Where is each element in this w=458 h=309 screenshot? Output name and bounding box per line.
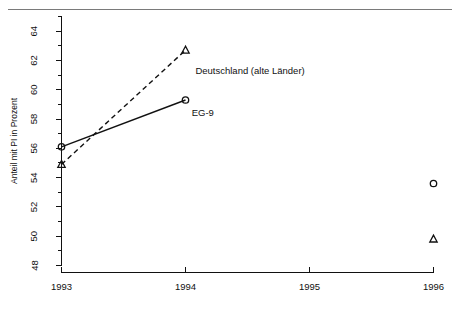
x-tick-label: 1993 xyxy=(51,281,72,292)
x-tick-label: 1995 xyxy=(299,281,320,292)
x-tick-label: 1996 xyxy=(423,281,444,292)
y-tick-label: 54 xyxy=(29,172,40,183)
data-point-triangle xyxy=(182,46,189,53)
y-tick-label: 60 xyxy=(29,84,40,95)
y-tick-label: 52 xyxy=(29,202,40,213)
data-point-triangle xyxy=(430,235,437,242)
y-tick-label: 56 xyxy=(29,143,40,154)
x-tick-label: 1994 xyxy=(175,281,196,292)
y-tick-label: 64 xyxy=(29,26,40,37)
figure-canvas: 485052545658606264Anteil mit PI in Proze… xyxy=(0,0,458,309)
data-point-circle xyxy=(430,180,436,186)
series-label-deutschland: Deutschland (alte Länder) xyxy=(195,65,304,76)
y-tick-label: 48 xyxy=(29,260,40,271)
y-tick-label: 58 xyxy=(29,114,40,125)
line-chart: 485052545658606264Anteil mit PI in Proze… xyxy=(0,0,458,309)
y-tick-label: 50 xyxy=(29,231,40,242)
series-label-eg9: EG-9 xyxy=(192,107,214,118)
y-tick-label: 62 xyxy=(29,55,40,66)
y-axis-title: Anteil mit PI in Prozent xyxy=(9,97,19,184)
series-line-eg9 xyxy=(62,100,186,147)
